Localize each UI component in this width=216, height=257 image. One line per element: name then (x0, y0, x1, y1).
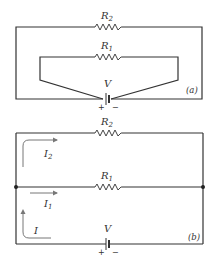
circuit-a-inner-wire-right (111, 57, 178, 99)
battery-b-minus: − (112, 248, 119, 257)
battery-b (106, 238, 109, 250)
current-arrow-i2 (23, 138, 58, 168)
battery-a (106, 93, 109, 105)
battery-b-voltage-label: V (104, 223, 113, 234)
circuit-a: R2 R1 V + − (a) (16, 10, 202, 112)
resistor-r1-b-label: R1 (100, 170, 113, 183)
resistor-r2-a (95, 24, 122, 30)
diagram-b-tag: (b) (188, 232, 200, 242)
resistor-r1-b (95, 184, 122, 190)
junction-dot-right (201, 185, 205, 189)
battery-b-plus: + (98, 248, 105, 257)
battery-a-voltage-label: V (104, 78, 113, 89)
resistor-r2-b (95, 130, 122, 136)
circuit-b: R2 R1 V + − I2 I1 (14, 116, 205, 257)
current-arrow-i1 (30, 191, 58, 196)
circuit-a-outer-wire (16, 27, 103, 99)
battery-a-minus: − (112, 103, 119, 112)
junction-dot-left (14, 185, 18, 189)
current-i-label: I (33, 225, 39, 236)
diagram-a-tag: (a) (186, 85, 198, 95)
resistor-r1-a-label: R1 (100, 40, 113, 53)
battery-a-plus: + (98, 103, 105, 112)
circuit-diagrams: R2 R1 V + − (a) R2 R1 (0, 0, 216, 257)
resistor-r2-b-label: R2 (100, 116, 114, 129)
current-i2-label: I2 (43, 148, 53, 161)
resistor-r1-a (95, 54, 122, 60)
circuit-a-inner-wire-left (40, 57, 103, 99)
current-i1-label: I1 (43, 198, 52, 211)
resistor-r2-a-label: R2 (100, 10, 114, 23)
